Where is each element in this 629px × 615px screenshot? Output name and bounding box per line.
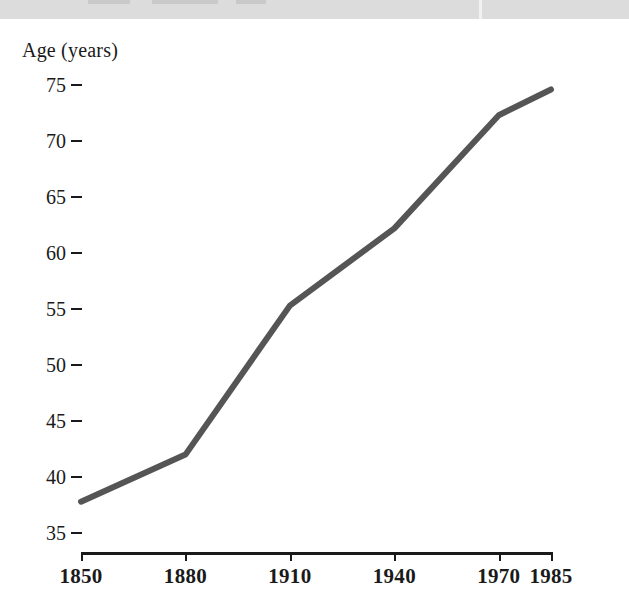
x-axis-tick-label: 1880 <box>164 564 207 589</box>
x-axis-tick-label: 1985 <box>529 564 572 589</box>
x-axis-tick-mark <box>185 552 187 561</box>
chart-plot-area: 757065605550454035 185018801910194019701… <box>0 0 629 615</box>
x-axis-tick-label: 1940 <box>373 564 416 589</box>
x-axis-tick-label: 1850 <box>59 564 102 589</box>
x-axis-line <box>81 552 551 555</box>
x-axis-tick-mark <box>551 552 553 561</box>
x-axis-tick-mark <box>499 552 501 561</box>
x-axis-tick-mark <box>394 552 396 561</box>
x-axis-tick-label: 1970 <box>477 564 520 589</box>
x-axis-tick-mark <box>290 552 292 561</box>
x-axis-tick-label: 1910 <box>268 564 311 589</box>
line-series-canvas <box>0 0 629 615</box>
line-series-path <box>81 89 551 501</box>
x-axis-tick-mark <box>81 552 83 561</box>
